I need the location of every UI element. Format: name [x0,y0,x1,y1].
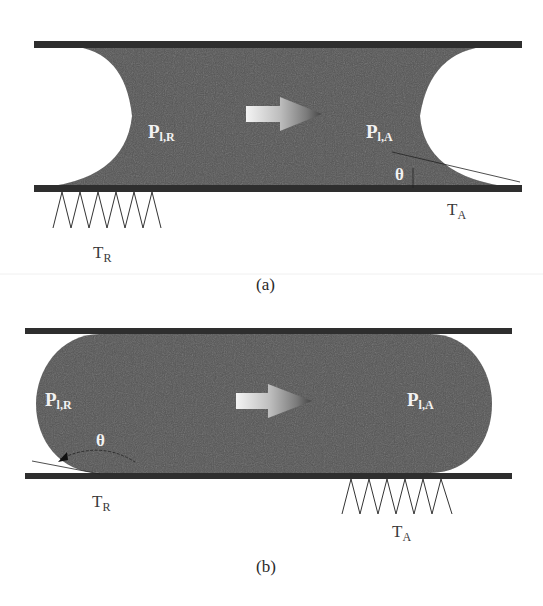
label-contact-angle-b: θ [96,431,105,450]
top-plate-b [25,328,512,334]
diagram-canvas: Pl,R Pl,A θ TR TA (a) [0,0,543,606]
caption-b: (b) [256,557,276,576]
panel-a: Pl,R Pl,A θ TR TA (a) [0,41,543,294]
bottom-plate-a [34,185,522,192]
heater-zigzag-icon-b [342,479,452,514]
label-temperature-advancing-b: TA [392,522,411,544]
heater-zigzag-icon-a [53,192,161,228]
top-plate-a [34,41,522,48]
panel-b: Pl,R Pl,A θ TR TA (b) [25,328,512,576]
label-temperature-receding-b: TR [92,492,110,514]
label-contact-angle-a: θ [395,165,404,184]
caption-a: (a) [256,275,275,294]
label-temperature-advancing-a: TA [447,200,466,222]
label-temperature-receding-a: TR [93,243,111,265]
